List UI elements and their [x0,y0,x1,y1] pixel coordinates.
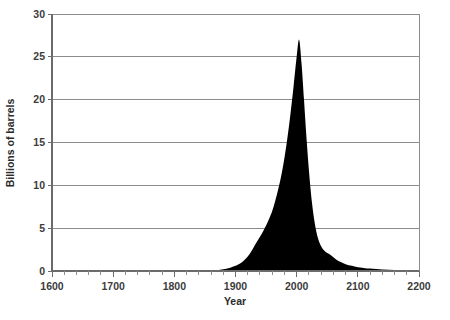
x-tick-label-1800: 1800 [163,280,187,292]
y-tick-label-25: 25 [33,50,45,62]
y-tick-label-15: 15 [33,136,45,148]
y-tick-label-20: 20 [33,93,45,105]
x-tick-label-1600: 1600 [40,280,64,292]
y-tick-label-5: 5 [39,222,45,234]
y-tick-label-10: 10 [33,179,45,191]
x-tick-label-1900: 1900 [224,280,248,292]
chart-container: 051015202530 160017001800190020002100220… [0,0,450,320]
x-tick-label-1700: 1700 [101,280,125,292]
x-tick-label-2100: 2100 [346,280,370,292]
x-axis-title: Year [224,295,246,307]
y-axis-title: Billions of barrels [4,98,16,187]
y-tick-label-30: 30 [33,8,45,20]
x-tick-label-2000: 2000 [285,280,309,292]
y-tick-label-0: 0 [39,265,45,277]
oil-volume-area-chart: 051015202530 160017001800190020002100220… [0,0,450,320]
x-tick-label-2200: 2200 [407,280,431,292]
